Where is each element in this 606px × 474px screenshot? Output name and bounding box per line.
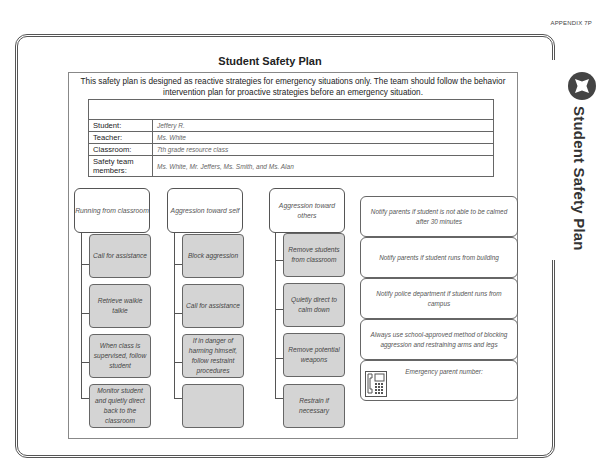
side-tab-icon [568, 72, 596, 100]
step-box: When class is supervised, follow student [89, 334, 151, 378]
step-box: If in danger of harming himself, follow … [182, 334, 244, 378]
note-text: Always use school-approved method of blo… [367, 330, 511, 350]
column-heading-running: Running from classroom [74, 188, 150, 233]
connector [174, 264, 182, 265]
label-classroom: Classroom: [89, 144, 153, 156]
connector [275, 398, 283, 399]
connector [81, 398, 89, 399]
connector [275, 358, 283, 359]
note-calm-30-minutes: Notify parents if student is not able to… [360, 196, 518, 237]
connector [174, 362, 182, 363]
connector [81, 313, 89, 314]
connector [81, 264, 89, 265]
note-runs-from-campus: Notify police department if student runs… [360, 278, 518, 319]
info-row-team: Safety team members: Ms. White, Mr. Jeff… [89, 156, 494, 177]
value-student[interactable]: Jeffery R. [153, 120, 494, 132]
connector [174, 313, 182, 314]
label-student: Student: [89, 120, 153, 132]
connector [275, 309, 283, 310]
info-row-student: Student: Jeffery R. [89, 120, 494, 132]
step-box: Quietly direct to calm down [283, 283, 345, 327]
step-box: Block aggression [182, 234, 244, 278]
note-text: Notify parents if student is not able to… [367, 207, 511, 227]
column-heading-self: Aggression toward self [167, 188, 243, 233]
frame-gap [540, 60, 560, 260]
connector [275, 260, 283, 261]
step-box: Retrieve walkie talkie [89, 284, 151, 328]
connector [275, 233, 276, 398]
side-tab-title: Student Safety Plan [571, 106, 588, 251]
step-box: Call for assistance [89, 234, 151, 278]
blank-row [89, 100, 494, 120]
connector [81, 233, 82, 398]
connector [174, 398, 182, 399]
value-team[interactable]: Ms. White, Mr. Jeffers, Ms. Smith, and M… [153, 156, 494, 177]
label-team: Safety team members: [89, 156, 153, 177]
step-box: Call for assistance [182, 284, 244, 328]
student-info-table: Student: Jeffery R. Teacher: Ms. White C… [88, 99, 494, 177]
step-box-empty [182, 384, 244, 428]
document-title: Student Safety Plan [0, 55, 540, 67]
note-runs-from-building: Notify parents if student runs from buil… [360, 237, 518, 278]
step-box: Remove students from classroom [283, 233, 345, 277]
connector [81, 362, 89, 363]
intro-text: This safety plan is designed as reactive… [70, 76, 516, 98]
value-teacher[interactable]: Ms. White [153, 132, 494, 144]
label-teacher: Teacher: [89, 132, 153, 144]
column-heading-others: Aggression toward others [269, 188, 345, 233]
appendix-label: APPENDIX 7P [550, 20, 592, 26]
value-classroom[interactable]: 7th grade resource class [153, 144, 494, 156]
step-box: Monitor student and quietly direct back … [89, 384, 151, 428]
note-text: Notify police department if student runs… [367, 289, 511, 309]
info-row-classroom: Classroom: 7th grade resource class [89, 144, 494, 156]
connector [174, 233, 175, 398]
step-box: Remove potential weapons [283, 333, 345, 377]
note-emergency-number[interactable]: Emergency parent number: [360, 360, 518, 401]
note-text: Notify parents if student runs from buil… [379, 253, 499, 263]
emergency-number-label: Emergency parent number: [405, 367, 482, 377]
note-approved-method: Always use school-approved method of blo… [360, 319, 518, 360]
step-box: Restrain if necessary [283, 384, 345, 428]
info-row-teacher: Teacher: Ms. White [89, 132, 494, 144]
telephone-icon [365, 371, 387, 397]
